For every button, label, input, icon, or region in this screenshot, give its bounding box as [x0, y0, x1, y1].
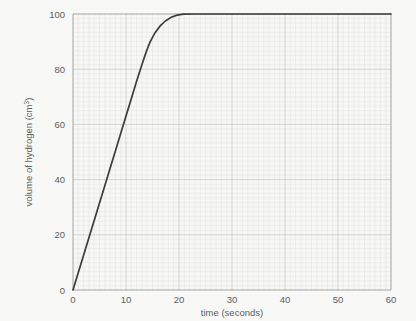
x-axis-title: time (seconds) — [201, 307, 263, 318]
y-tick-label-2: 40 — [54, 174, 65, 185]
x-tick-label-4: 40 — [280, 294, 291, 305]
svg-text:volume of hydrogen (cm3): volume of hydrogen (cm3) — [23, 98, 34, 207]
y-axis-title: volume of hydrogen (cm3) — [23, 98, 34, 207]
chart-figure: 0 10 20 30 40 50 60 0 20 40 60 80 100 ti… — [0, 0, 416, 321]
chart-svg: 0 10 20 30 40 50 60 0 20 40 60 80 100 ti… — [0, 0, 416, 321]
y-tick-label-4: 80 — [54, 64, 65, 75]
y-axis-title-close: ) — [23, 98, 34, 101]
x-tick-label-5: 50 — [333, 294, 344, 305]
y-tick-label-1: 20 — [54, 229, 65, 240]
y-tick-label-5: 100 — [49, 9, 65, 20]
y-tick-label-0: 0 — [60, 285, 65, 296]
y-tick-label-3: 60 — [54, 119, 65, 130]
x-tick-label-2: 20 — [174, 294, 185, 305]
y-axis-title-base: volume of hydrogen (cm — [23, 104, 34, 206]
x-tick-label-3: 30 — [227, 294, 238, 305]
x-tick-label-6: 60 — [386, 294, 397, 305]
x-tick-label-0: 0 — [70, 294, 75, 305]
x-tick-label-1: 10 — [121, 294, 132, 305]
